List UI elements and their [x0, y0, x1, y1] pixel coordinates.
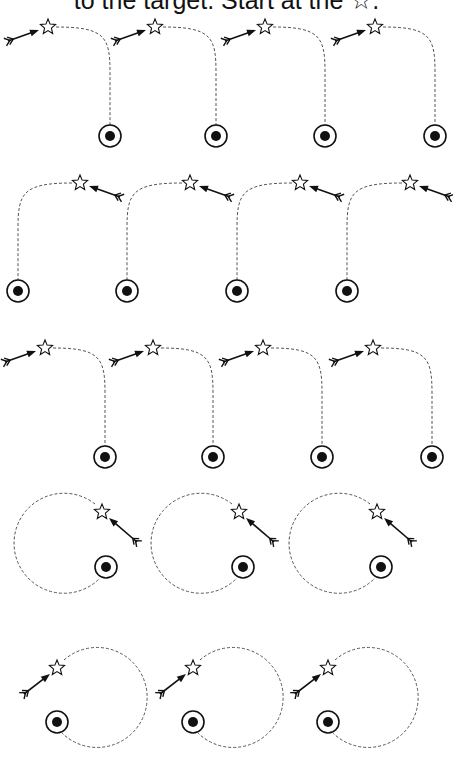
target-icon [317, 711, 339, 733]
dashed-trace-path [273, 27, 325, 125]
dashed-trace-path [333, 647, 418, 747]
arrow-icon [384, 518, 417, 547]
star-icon [37, 340, 52, 355]
dashed-trace-path [18, 183, 72, 280]
target-icon [232, 556, 254, 578]
target-icon [202, 446, 224, 468]
star-icon [94, 504, 109, 519]
arrow-icon [111, 30, 146, 46]
dashed-trace-path [163, 27, 216, 125]
target-icon [7, 280, 29, 302]
star-icon [402, 175, 417, 190]
star-icon [185, 660, 200, 675]
dashed-trace-path [151, 493, 237, 593]
star-icon [147, 19, 162, 34]
star-icon [320, 660, 335, 675]
star-icon [182, 175, 197, 190]
arrow-icon [419, 186, 453, 202]
target-icon [424, 125, 446, 147]
arrow-icon [19, 674, 50, 699]
dashed-trace-path [383, 27, 435, 125]
target-icon [46, 711, 68, 733]
star-icon [367, 19, 382, 34]
arrow-icon [1, 351, 36, 367]
star-icon [49, 660, 64, 675]
arrow-icon [309, 186, 344, 202]
target-icon [95, 556, 117, 578]
target-icon [94, 446, 116, 468]
dashed-trace-path [62, 647, 147, 747]
arrow-icon [331, 30, 366, 46]
dashed-trace-path [198, 647, 283, 747]
star-icon [292, 175, 307, 190]
arrow-icon [89, 186, 124, 202]
dashed-trace-path [347, 183, 402, 280]
target-icon [182, 711, 204, 733]
dashed-trace-path [56, 27, 110, 125]
dashed-trace-path [289, 493, 375, 593]
star-icon [231, 504, 246, 519]
arrow-icon [246, 518, 279, 547]
arrow-icon [199, 186, 234, 202]
target-icon [421, 446, 443, 468]
star-icon [145, 340, 160, 355]
dashed-trace-path [127, 183, 182, 280]
target-icon [116, 280, 138, 302]
dashed-trace-path [161, 348, 213, 446]
target-icon [336, 280, 358, 302]
star-icon [369, 504, 384, 519]
arrow-icon [219, 351, 254, 367]
arrow-icon [221, 30, 256, 46]
arrow-icon [290, 674, 321, 699]
arrow-icon [329, 351, 364, 367]
arrow-icon [109, 351, 144, 367]
star-icon [257, 19, 272, 34]
dashed-trace-path [271, 348, 322, 446]
star-icon [255, 340, 270, 355]
target-icon [370, 556, 392, 578]
star-icon [72, 175, 87, 190]
dashed-trace-path [237, 183, 292, 280]
target-icon [226, 280, 248, 302]
arrow-icon [4, 30, 39, 46]
target-icon [99, 125, 121, 147]
arrow-icon [155, 674, 186, 699]
target-icon [311, 446, 333, 468]
arrow-icon [109, 518, 142, 547]
target-icon [205, 125, 227, 147]
dashed-trace-path [53, 348, 105, 446]
star-icon [365, 340, 380, 355]
dashed-trace-path [14, 493, 100, 593]
target-icon [314, 125, 336, 147]
star-icon [40, 19, 55, 34]
tracing-worksheet [0, 0, 453, 758]
dashed-trace-path [381, 348, 432, 446]
